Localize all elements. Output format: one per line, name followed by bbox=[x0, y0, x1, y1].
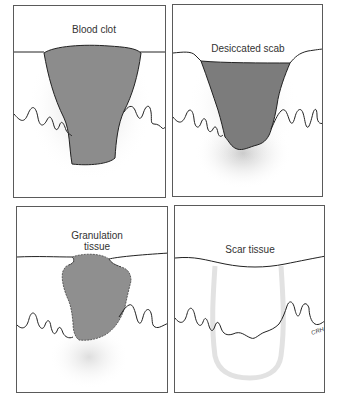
panel-blood-clot: Blood clot bbox=[13, 5, 166, 198]
scar-tissue-illustration bbox=[175, 206, 325, 393]
panel-desiccated-scab: Desiccated scab bbox=[172, 4, 323, 197]
label-granulation-tissue: Granulation tissue bbox=[57, 230, 137, 252]
label-granulation-line2: tissue bbox=[57, 241, 137, 252]
label-scar-tissue: Scar tissue bbox=[205, 244, 295, 255]
label-blood-clot: Blood clot bbox=[64, 24, 124, 35]
label-desiccated-scab: Desiccated scab bbox=[203, 43, 293, 54]
label-granulation-line1: Granulation bbox=[57, 230, 137, 241]
panel-granulation-tissue: Granulation tissue bbox=[16, 206, 168, 393]
panel-scar-tissue: Scar tissue CRH bbox=[174, 205, 325, 393]
desiccated-scab-illustration bbox=[173, 5, 323, 197]
